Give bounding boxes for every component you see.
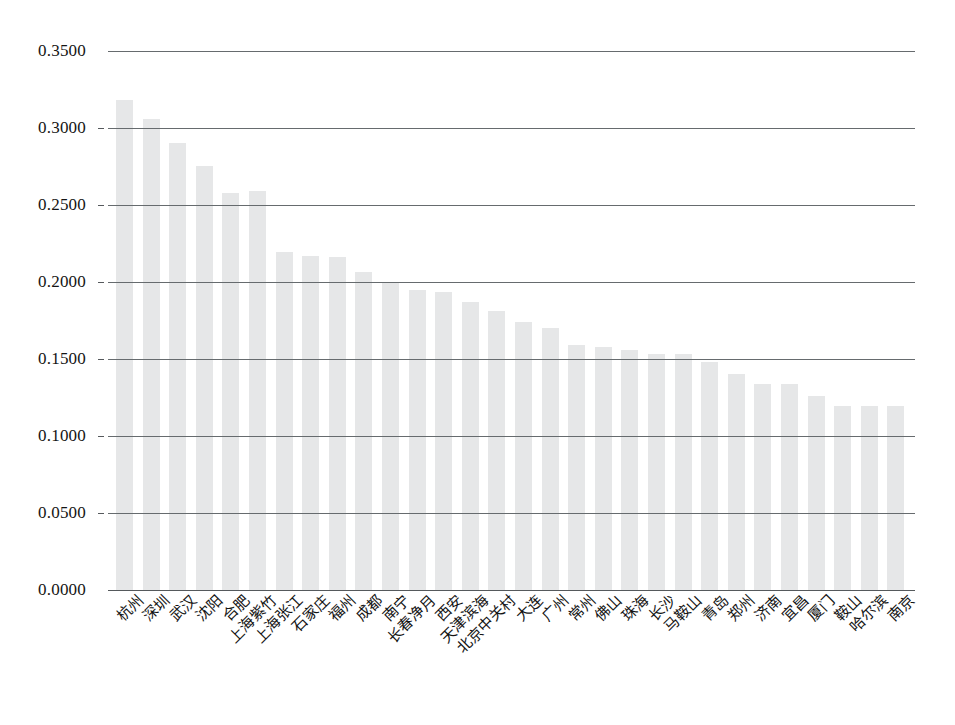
x-axis-tick-label-wrapper: 宜昌 — [778, 592, 811, 625]
gridline — [108, 359, 915, 360]
y-axis-tick-label: 0.2500 — [38, 196, 86, 213]
x-axis-tick-label: 武汉 — [166, 592, 199, 625]
y-axis-tick — [98, 128, 104, 129]
gridline — [108, 513, 915, 514]
x-axis-tick-label: 济南 — [752, 592, 785, 625]
x-axis-tick-label: 青岛 — [698, 592, 731, 625]
bar — [355, 272, 372, 590]
y-axis-tick — [98, 205, 104, 206]
gridline — [108, 205, 915, 206]
x-axis-tick-label-wrapper: 济南 — [752, 592, 785, 625]
bar-group — [108, 51, 915, 590]
bar — [515, 322, 532, 590]
y-axis-tick — [98, 513, 104, 514]
x-axis-tick-label-wrapper: 福州 — [326, 592, 359, 625]
y-axis-tick-label: 0.0500 — [38, 504, 86, 521]
plot-area — [108, 51, 915, 590]
bar-chart: 0.35000.30000.25000.20000.15000.10000.05… — [0, 0, 955, 725]
y-axis-tick-label: 0.3500 — [38, 42, 86, 59]
x-axis-tick-label-wrapper: 成都 — [353, 592, 386, 625]
y-axis-tick-label: 0.2000 — [38, 273, 86, 290]
axis-baseline — [108, 590, 915, 591]
bar — [276, 252, 293, 590]
x-axis-tick-label-wrapper: 武汉 — [166, 592, 199, 625]
bar — [675, 354, 692, 590]
bar — [648, 354, 665, 590]
x-axis-tick-label-wrapper: 深圳 — [140, 592, 173, 625]
y-axis-tick-label: 0.0000 — [38, 581, 86, 598]
bar — [329, 257, 346, 590]
bar — [701, 362, 718, 590]
y-axis-tick-label: 0.1500 — [38, 350, 86, 367]
x-axis-tick-label: 珠海 — [619, 592, 652, 625]
y-axis-label-group: 0.35000.30000.25000.20000.15000.10000.05… — [0, 0, 86, 725]
bar — [302, 256, 319, 590]
x-axis-tick-label: 成都 — [353, 592, 386, 625]
x-axis-tick-label: 杭州 — [113, 592, 146, 625]
gridline — [108, 51, 915, 52]
bar — [621, 350, 638, 590]
bar — [781, 384, 798, 590]
bar — [728, 374, 745, 590]
bar — [595, 347, 612, 590]
x-axis-tick-label: 深圳 — [140, 592, 173, 625]
x-axis-tick-label: 南京 — [885, 592, 918, 625]
bar — [169, 143, 186, 590]
bar — [887, 406, 904, 590]
bar — [116, 100, 133, 590]
x-axis-tick-label-wrapper: 广州 — [539, 592, 572, 625]
x-axis-tick-label-wrapper: 珠海 — [619, 592, 652, 625]
x-axis-tick-label-wrapper: 郑州 — [725, 592, 758, 625]
bar — [462, 302, 479, 590]
y-axis-tick-label: 0.3000 — [38, 119, 86, 136]
bar — [861, 406, 878, 590]
x-axis-tick-label: 福州 — [326, 592, 359, 625]
x-axis-tick-label-wrapper: 佛山 — [592, 592, 625, 625]
x-axis-tick-label: 大连 — [512, 592, 545, 625]
bar — [143, 119, 160, 590]
x-axis-label-group: 杭州深圳武汉沈阳合肥上海紫竹上海张江石家庄福州成都南宁长春净月西安天津滨海北京中… — [108, 592, 955, 725]
bar — [435, 292, 452, 590]
gridline — [108, 282, 915, 283]
x-axis-tick-label-wrapper: 常州 — [565, 592, 598, 625]
x-axis-tick-label: 郑州 — [725, 592, 758, 625]
bar — [196, 166, 213, 590]
y-axis-tick — [98, 282, 104, 283]
gridline — [108, 436, 915, 437]
bar — [249, 191, 266, 590]
x-axis-tick-label-wrapper: 沈阳 — [193, 592, 226, 625]
x-axis-tick-label-wrapper: 南京 — [885, 592, 918, 625]
x-axis-tick-label: 宜昌 — [778, 592, 811, 625]
y-axis-tick — [98, 359, 104, 360]
gridline — [108, 128, 915, 129]
x-axis-tick-label: 沈阳 — [193, 592, 226, 625]
x-axis-tick-label-wrapper: 大连 — [512, 592, 545, 625]
x-axis-tick-label: 佛山 — [592, 592, 625, 625]
x-axis-tick-label-wrapper: 厦门 — [805, 592, 838, 625]
x-axis-tick-label: 广州 — [539, 592, 572, 625]
bar — [488, 311, 505, 590]
y-axis-tick-label: 0.1000 — [38, 427, 86, 444]
x-axis-tick-label: 常州 — [565, 592, 598, 625]
bar — [834, 406, 851, 590]
bar — [568, 345, 585, 590]
bar — [409, 290, 426, 590]
bar — [222, 193, 239, 590]
bar — [808, 396, 825, 590]
y-axis-tick — [98, 436, 104, 437]
x-axis-tick-label-wrapper: 杭州 — [113, 592, 146, 625]
x-axis-tick-label-wrapper: 青岛 — [698, 592, 731, 625]
x-axis-tick-label: 厦门 — [805, 592, 838, 625]
bar — [754, 384, 771, 590]
bar — [542, 328, 559, 590]
